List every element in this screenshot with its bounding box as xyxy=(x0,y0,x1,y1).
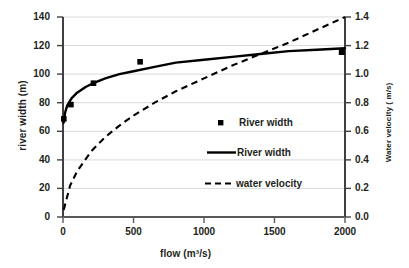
y-right-tick-label-1-0: 1.0 xyxy=(355,68,385,79)
legend-item-river-width-markers: River width xyxy=(239,117,293,128)
y-right-tick-label-0-0: 0.0 xyxy=(355,211,385,222)
y-right-tick-label-0-2: 0.2 xyxy=(355,182,385,193)
data-point-marker xyxy=(137,59,143,65)
x-axis-title: flow (m³/s) xyxy=(160,248,211,259)
y-left-tick-label-40: 40 xyxy=(20,154,50,165)
x-tick-label-1500: 1500 xyxy=(255,226,295,237)
x-tick-label-0: 0 xyxy=(43,226,83,237)
x-tick-label-500: 500 xyxy=(114,226,154,237)
legend-square-marker-icon xyxy=(218,120,223,125)
data-point-marker xyxy=(61,116,67,122)
legend-item-river-width-line: River width xyxy=(237,147,291,158)
y-right-tick-label-0-8: 0.8 xyxy=(355,97,385,108)
series-river-width-line xyxy=(64,48,345,122)
data-point-marker xyxy=(68,102,74,108)
legend-symbols xyxy=(205,120,236,184)
x-tick-label-1000: 1000 xyxy=(184,226,224,237)
y-right-tick-label-1-2: 1.2 xyxy=(355,40,385,51)
y-right-tick-label-0-6: 0.6 xyxy=(355,125,385,136)
y-left-tick-label-20: 20 xyxy=(20,182,50,193)
y-right-tick-label-0-4: 0.4 xyxy=(355,154,385,165)
y-left-tick-label-60: 60 xyxy=(20,125,50,136)
y-left-tick-label-80: 80 xyxy=(20,97,50,108)
y-left-tick-label-120: 120 xyxy=(20,40,50,51)
data-point-marker xyxy=(339,49,345,55)
y-left-tick-label-140: 140 xyxy=(20,11,50,22)
y-right-tick-label-1-4: 1.4 xyxy=(355,11,385,22)
y-left-tick-label-0: 0 xyxy=(20,211,50,222)
data-point-marker xyxy=(91,80,97,86)
y-left-tick-label-100: 100 xyxy=(20,68,50,79)
x-tick-label-2000: 2000 xyxy=(325,226,365,237)
gridlines xyxy=(63,17,345,188)
legend-item-water-velocity: water velocity xyxy=(236,178,302,189)
chart-container: river width (m) Water velocity ( m/s) fl… xyxy=(0,0,409,268)
